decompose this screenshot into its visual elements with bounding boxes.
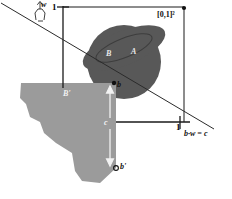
y-axis-one-tick-label: 1 bbox=[52, 3, 57, 12]
unit-square-label: [0,1]² bbox=[157, 11, 175, 19]
region-b-label: B bbox=[106, 50, 111, 58]
region-a-label: A bbox=[131, 48, 136, 56]
figure-canvas bbox=[0, 0, 232, 199]
region-b-prime-label: B' bbox=[63, 90, 71, 98]
geometry-figure: [0,1]² 1 1 w A B B' b b' c b·w = c bbox=[0, 0, 232, 199]
halfplane-equation-label: b·w = c bbox=[184, 130, 207, 138]
w-vector-label: w bbox=[41, 1, 46, 9]
point-b-prime-label: b' bbox=[120, 163, 126, 171]
region-b-prime-polygon bbox=[20, 83, 116, 183]
point-b-label: b bbox=[117, 81, 121, 89]
distance-c-label: c bbox=[104, 119, 108, 127]
point-b-dot bbox=[112, 81, 116, 85]
x-axis-one-tick-label: 1 bbox=[176, 123, 181, 132]
unit-square-corner-dot bbox=[182, 6, 186, 10]
